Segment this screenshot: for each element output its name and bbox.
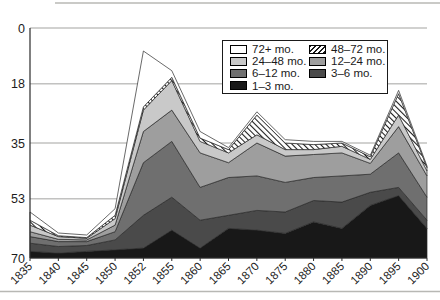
y-tick-labels: 018355370 [11,22,25,266]
legend-label: 12–24 mo. [331,55,385,67]
y-tick-label: 53 [11,192,25,206]
legend-swatch-6-12-icon [230,69,247,78]
x-tick-label: 1880 [291,260,318,287]
legend-item: 24–48 mo. [230,55,309,67]
x-tick-label: 1900 [405,260,432,287]
legend-item: 3–6 mo. [309,67,385,79]
legend-label: 1–3 mo. [252,80,294,92]
legend-item: 1–3 mo. [230,80,309,92]
legend-swatch-3-6-icon [309,69,326,78]
legend-item: 12–24 mo. [309,55,385,67]
legend-label: 24–48 mo. [252,55,306,67]
x-tick-label: 1850 [93,260,120,287]
x-tick-label: 1865 [206,260,233,287]
legend-label: 72+ mo. [252,43,294,55]
x-tick-label: 1885 [320,260,347,287]
y-tick-label: 18 [11,77,25,91]
legend-label: 3–6 mo. [331,67,373,79]
legend-swatch-24-48-icon [230,57,247,66]
legend-label: 48–72 mo. [331,43,385,55]
x-tick-label: 1895 [376,260,403,287]
legend-swatch-12-24-icon [309,57,326,66]
legend-swatch-48-72-icon [309,45,326,54]
y-tick-label: 0 [18,22,25,36]
x-tick-label: 1845 [65,260,92,287]
x-tick-label: 1875 [263,260,290,287]
legend-label: 6–12 mo. [252,67,300,79]
x-tick-label: 1840 [36,260,63,287]
y-tick-label: 35 [11,137,25,151]
x-tick-label: 1870 [235,260,262,287]
legend-swatch-1-3-icon [230,81,247,90]
legend-item: 48–72 mo. [309,43,385,55]
chart-legend: 72+ mo. 48–72 mo. 24–48 mo. 12–24 mo. 6–… [222,40,388,94]
x-tick-label: 1855 [150,260,177,287]
x-tick-label: 1860 [178,260,205,287]
legend-item: 72+ mo. [230,43,309,55]
x-tick-labels: 1835184018451850185218551860186518701875… [8,260,432,287]
x-tick-label: 1890 [348,260,375,287]
legend-swatch-72plus-icon [230,45,247,54]
x-tick-label: 1852 [121,260,148,287]
legend-item: 6–12 mo. [230,67,309,79]
